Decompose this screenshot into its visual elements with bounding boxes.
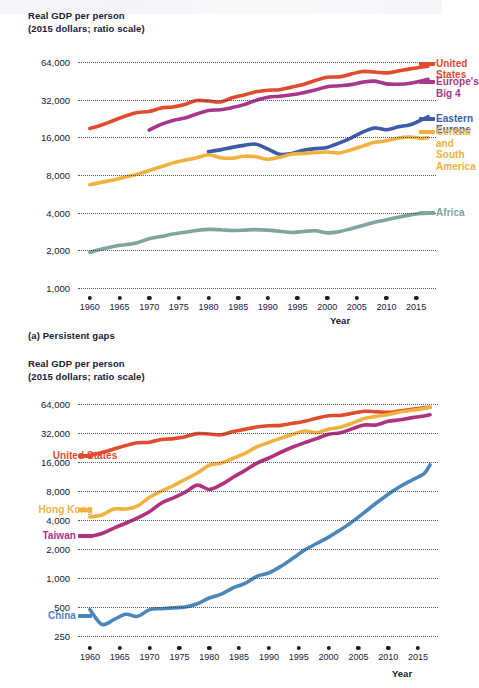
x-axis-tick-label: 2015 <box>408 652 428 662</box>
series-label-hong-kong: Hong Kong <box>38 504 93 516</box>
x-axis-tick-label: 1975 <box>169 302 189 312</box>
series-line-united-states <box>90 66 428 128</box>
gridline <box>78 607 438 608</box>
panel-a-persistent-gaps: Real GDP per person (2015 dollars; ratio… <box>0 0 442 344</box>
series-label-taiwan: Taiwan <box>39 530 76 542</box>
x-axis-tick-label: 1960 <box>80 302 100 312</box>
series-label-africa: Africa <box>436 207 465 219</box>
y-axis-tick-label: 1,000 <box>8 283 70 294</box>
series-swatch <box>78 614 92 618</box>
gridline <box>78 549 438 550</box>
x-axis-tick-label: 1985 <box>229 652 249 662</box>
gridline <box>78 636 438 637</box>
series-swatch <box>419 80 435 84</box>
gridline <box>78 491 438 492</box>
series-line-africa <box>90 213 428 252</box>
x-axis-tick-label: 1970 <box>140 652 160 662</box>
y-axis-tick-label: 2,000 <box>8 544 70 555</box>
x-axis-tick-label: 1990 <box>259 652 279 662</box>
series-label-united-states: United States <box>38 450 117 462</box>
panel-a-x-axis-title: Year <box>330 315 350 326</box>
x-axis-tick-label: 2010 <box>378 652 398 662</box>
x-axis-tick-label: 1995 <box>287 302 307 312</box>
series-label-china: China <box>45 610 76 622</box>
x-axis-tick-label: 2010 <box>376 302 396 312</box>
panel-a-plot-area: 1,0002,0004,0008,00016,00032,00064,00019… <box>0 0 442 344</box>
panel-b-x-axis-title: Year <box>392 668 412 679</box>
gridline <box>78 213 436 214</box>
x-axis-tick-label: 1965 <box>110 652 130 662</box>
gridline <box>78 520 438 521</box>
y-axis-tick-label: 64,000 <box>8 57 70 68</box>
x-axis-tick-label: 1975 <box>169 652 189 662</box>
gridline <box>78 578 438 579</box>
gridline <box>78 250 436 251</box>
x-axis-tick-label: 1990 <box>258 302 278 312</box>
gridline <box>78 62 436 63</box>
x-axis-tick-label: 1980 <box>199 652 219 662</box>
x-axis-tick-label: 1970 <box>139 302 159 312</box>
series-line-china <box>90 465 430 625</box>
series-swatch <box>419 62 435 66</box>
gridline <box>78 288 436 289</box>
y-axis-tick-label: 16,000 <box>8 132 70 143</box>
y-axis-tick-label: 4,000 <box>8 515 70 526</box>
x-axis-tick-label: 2015 <box>406 302 426 312</box>
x-axis-tick-label: 2000 <box>319 652 339 662</box>
gridline <box>78 100 436 101</box>
panel-b-plot-area: 2505001,0002,0004,0008,00016,00032,00064… <box>0 344 442 688</box>
x-axis-tick-label: 1965 <box>110 302 130 312</box>
series-swatch <box>419 211 435 215</box>
gridline <box>78 137 436 138</box>
y-axis-tick-label: 64,000 <box>8 399 70 410</box>
y-axis-tick-label: 4,000 <box>8 207 70 218</box>
x-axis-tick-label: 2000 <box>317 302 337 312</box>
gridline <box>78 462 438 463</box>
series-swatch <box>78 534 92 538</box>
gridline <box>78 404 438 405</box>
y-axis-tick-label: 2,000 <box>8 245 70 256</box>
y-axis-tick-label: 32,000 <box>8 94 70 105</box>
x-axis-tick-label: 1980 <box>198 302 218 312</box>
series-label-europe-s-big-4: Europe's Big 4 <box>436 76 479 99</box>
y-axis-tick-label: 1,000 <box>8 573 70 584</box>
y-axis-tick-label: 8,000 <box>8 486 70 497</box>
x-axis-tick-label: 1995 <box>289 652 309 662</box>
x-axis-tick-label: 2005 <box>348 652 368 662</box>
panel-a-caption: (a) Persistent gaps <box>28 330 115 341</box>
gridline <box>78 433 438 434</box>
y-axis-tick-label: 250 <box>8 631 70 642</box>
x-axis-tick-label: 1960 <box>80 652 100 662</box>
x-axis-tick-label: 1985 <box>228 302 248 312</box>
gridline <box>78 175 436 176</box>
y-axis-tick-label: 32,000 <box>8 428 70 439</box>
x-axis-tick-label: 2005 <box>347 302 367 312</box>
y-axis-tick-label: 8,000 <box>8 170 70 181</box>
series-swatch <box>419 130 435 134</box>
series-swatch <box>419 117 435 121</box>
series-line-eastern-europe <box>209 117 428 155</box>
panel-b-catching-up: Real GDP per person (2015 dollars; ratio… <box>0 344 442 688</box>
series-label-central-and-south-america: Central and South America <box>436 126 476 172</box>
